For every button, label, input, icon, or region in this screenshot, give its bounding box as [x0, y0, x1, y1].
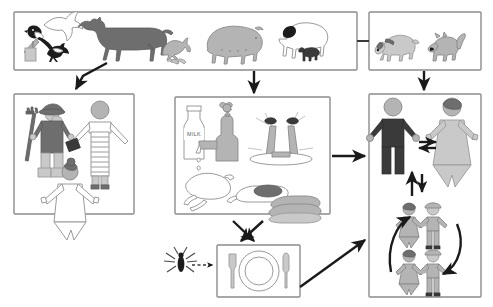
diagram-canvas: MILK [0, 0, 493, 307]
human-transmission-panel[interactable] [367, 94, 482, 297]
plate-icon [239, 251, 279, 291]
livestock-and-wildlife-panel[interactable] [14, 12, 357, 70]
sheep-icon [279, 23, 328, 61]
insect-vector-icon [164, 247, 197, 272]
milk-label: MILK [187, 131, 201, 137]
food-and-water-panel[interactable]: MILK [175, 97, 330, 223]
occupational-contact-panel[interactable] [14, 94, 134, 240]
prepared-meal-panel[interactable] [217, 245, 300, 297]
meat-stack-icon [269, 196, 321, 223]
companion-animals-panel[interactable] [369, 12, 481, 70]
arrow-meal-to-humans [300, 240, 365, 287]
